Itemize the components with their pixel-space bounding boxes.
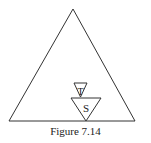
figure-diagram: T S [0,0,151,143]
triangle-s-label: S [83,102,89,114]
triangle-t-label: T [77,86,83,97]
outer-triangle [9,9,135,121]
figure-caption: Figure 7.14 [0,125,151,137]
